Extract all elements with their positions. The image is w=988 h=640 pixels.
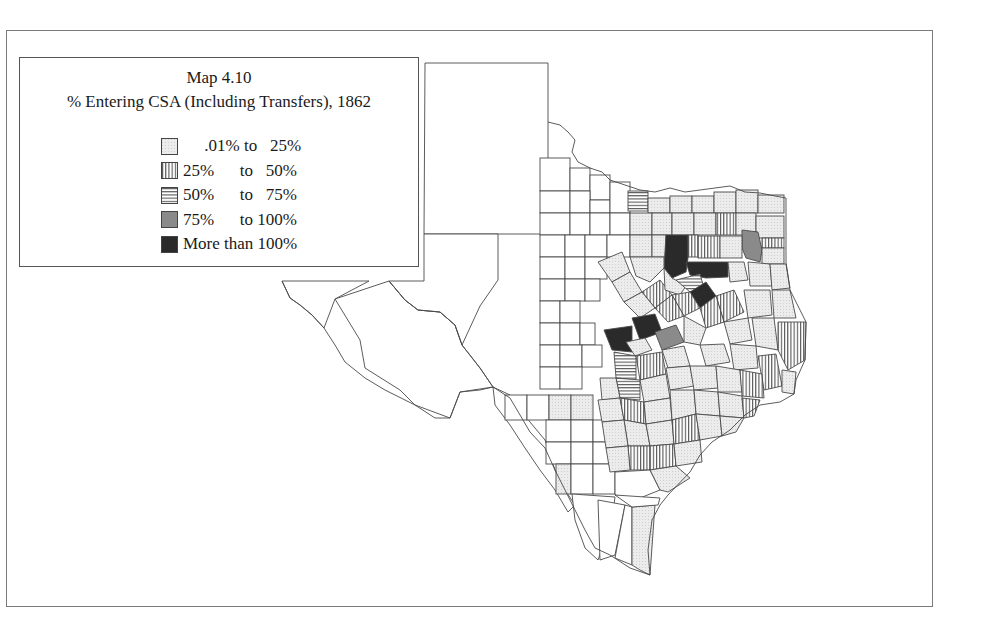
map-subtitle: % Entering CSA (Including Transfers), 18… [20,90,418,114]
legend-item-75-100: 75% to 100% [161,208,301,233]
legend-item-25-50: 25% to 50% [161,159,301,184]
map-legend: Map 4.10 % Entering CSA (Including Trans… [19,57,419,267]
panhandle [424,63,548,234]
light-stipple-swatch-icon [161,138,178,155]
legend-items: .01% to 25% 25% to 50% 50% to 75% 75% to… [161,134,301,257]
map-number: Map 4.10 [20,66,418,90]
vertical-lines-swatch-icon [161,162,178,179]
legend-item-0-25: .01% to 25% [161,134,301,159]
dark-swatch-icon [161,236,178,253]
medium-gray-swatch-icon [161,211,178,228]
horizontal-lines-swatch-icon [161,187,178,204]
legend-item-over-100: More than 100% [161,232,301,257]
legend-item-50-75: 50% to 75% [161,183,301,208]
legend-title-block: Map 4.10 % Entering CSA (Including Trans… [20,66,418,114]
